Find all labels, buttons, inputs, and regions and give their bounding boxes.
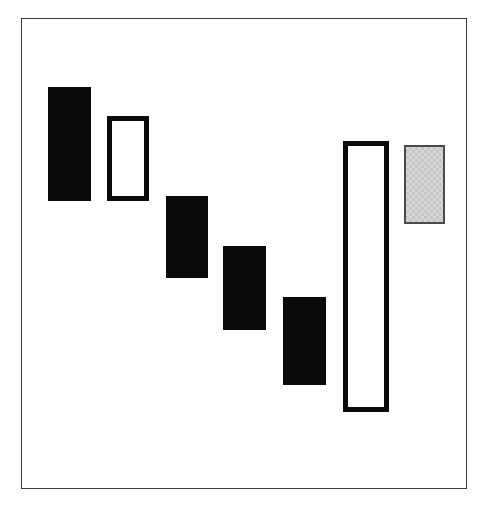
rectangle-4 (223, 246, 266, 330)
rectangle-2 (107, 116, 149, 201)
rectangle-6 (343, 141, 389, 412)
rectangle-1 (48, 87, 91, 201)
rectangle-5 (283, 297, 326, 385)
figure-canvas (0, 0, 487, 505)
rectangle-3 (166, 196, 208, 278)
rectangle-7 (404, 145, 445, 224)
halftone-texture (406, 147, 443, 222)
